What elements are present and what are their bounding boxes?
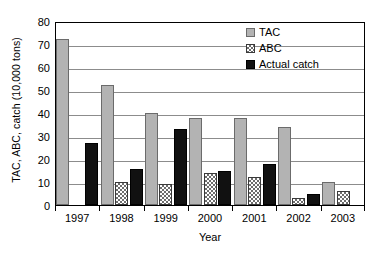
bar-abc-1999 [159,184,172,205]
bar-tac-2003 [322,182,335,205]
legend-label: ABC [259,43,282,54]
legend-item: TAC [246,25,350,40]
y-tick-label: 80 [22,17,50,28]
y-tick-label: 30 [22,132,50,143]
bar-tac-2001 [234,118,247,205]
legend-label: TAC [259,27,280,38]
legend-item: ABC [246,41,350,56]
x-tick-label: 1999 [142,212,190,224]
x-tick-mark [364,206,365,211]
x-axis-title: Year [55,231,365,243]
legend-item: Actual catch [246,57,350,72]
y-tick-label: 10 [22,178,50,189]
y-tick-label: 0 [22,201,50,212]
tac-swatch-icon [246,28,255,37]
bar-catch-2000 [218,171,231,206]
y-tick-label: 60 [22,63,50,74]
x-tick-label: 1997 [53,212,101,224]
bar-abc-2003 [337,191,350,205]
x-tick-mark [232,206,233,211]
y-tick-label: 50 [22,86,50,97]
y-tick-label: 40 [22,109,50,120]
bar-chart: TAC, ABC, catch (10,000 tons) 0102030405… [0,0,386,256]
x-tick-label: 1998 [97,212,145,224]
bar-abc-2002 [292,198,305,205]
bar-catch-2001 [263,164,276,205]
x-tick-mark [276,206,277,211]
chart-legend: TACABCActual catch [246,25,350,73]
y-tick-label: 20 [22,155,50,166]
x-tick-mark [144,206,145,211]
bar-tac-2002 [278,127,291,205]
bar-abc-2000 [204,173,217,205]
legend-label: Actual catch [259,59,319,70]
x-tick-label: 2002 [275,212,323,224]
catch-swatch-icon [246,60,255,69]
bar-abc-2001 [248,177,261,205]
x-tick-mark [55,206,56,211]
bar-tac-1999 [145,113,158,205]
x-tick-mark [99,206,100,211]
bar-abc-1998 [115,182,128,205]
bar-tac-2000 [189,118,202,205]
abc-swatch-icon [246,44,255,53]
x-tick-label: 2000 [186,212,234,224]
y-axis-tick-labels: 01020304050607080 [22,22,50,206]
x-axis-tick-labels: 1997199819992000200120022003 [55,212,365,228]
y-tick-label: 70 [22,40,50,51]
x-tick-label: 2003 [319,212,367,224]
bar-catch-1998 [130,169,143,205]
x-tick-mark [321,206,322,211]
bar-tac-1997 [56,39,69,205]
bar-catch-1997 [85,143,98,205]
bar-catch-1999 [174,129,187,205]
x-tick-mark [188,206,189,211]
bar-catch-2002 [307,194,320,206]
bar-tac-1998 [101,85,114,205]
y-axis-title: TAC, ABC, catch (10,000 tons) [10,15,22,205]
x-tick-label: 2001 [230,212,278,224]
